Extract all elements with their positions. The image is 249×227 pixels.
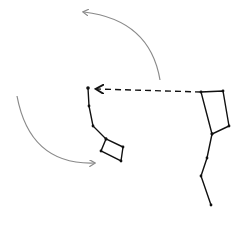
star-icon <box>120 160 123 163</box>
star-icon <box>206 157 209 160</box>
little-dipper <box>88 88 123 161</box>
pointer-arrow <box>97 89 201 92</box>
star-icon <box>105 138 108 141</box>
star-icon <box>86 86 90 90</box>
star-icon <box>88 105 91 108</box>
star-icon <box>200 175 203 178</box>
star-icon <box>92 125 95 128</box>
star-icon <box>210 204 213 207</box>
rotation-arc-1 <box>17 96 94 163</box>
constellation-diagram <box>0 0 249 227</box>
star-icon <box>228 125 231 128</box>
big-dipper <box>201 91 229 205</box>
star-icon <box>200 91 203 94</box>
rotation-arc-0 <box>84 12 160 80</box>
star-icon <box>211 133 214 136</box>
star-icon <box>222 90 225 93</box>
star-icon <box>122 146 125 149</box>
star-icon <box>100 150 103 153</box>
